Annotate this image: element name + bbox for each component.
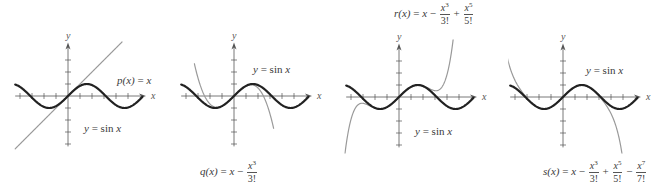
y-axis-label: y [396,31,402,42]
equals: = [423,125,429,137]
equals: = [594,64,600,76]
exponent: 3 [253,159,257,167]
x-var: x [116,122,121,134]
equals: = [137,74,143,86]
exponent: 7 [642,159,646,167]
p-rhs: x [146,74,151,86]
minus: − [626,165,632,177]
x-axis-label: x [645,91,651,102]
sin-fn: sin [603,64,616,76]
numerator: x3 [247,160,257,173]
x-var: x [447,125,452,137]
p-lhs: p(x) [117,74,135,86]
plus: + [603,165,609,177]
numerator: x3 [440,2,450,15]
y-axis-label: y [231,30,237,41]
fraction-x3-over-3fact: x3 3! [247,160,257,184]
fraction-x5-over-5fact: x5 5! [613,160,623,184]
label-q: q(x) = x − x3 3! [200,160,258,184]
label-sin-3: y = sin x [415,126,452,137]
exponent: 5 [469,1,473,9]
label-r: r(x) = x − x3 3! + x5 5! [394,2,474,26]
x-axis-label: x [316,90,322,101]
x-var: x [229,165,234,177]
equals: = [261,63,267,75]
taylor-polynomial-figure: xyxyxyxy p(x) = x y = sin x y = sin x q(… [0,0,668,195]
x-var: x [618,64,623,76]
x-var: x [422,7,427,19]
y-var: y [84,122,89,134]
denominator: 5! [464,15,474,26]
denominator: 3! [247,173,257,184]
s-lhs: s(x) [543,165,560,177]
y-var: y [415,125,420,137]
plus: + [454,7,460,19]
panel-2: xy [181,30,322,146]
r-lhs: r(x) [394,7,411,19]
denominator: 5! [613,173,623,184]
y-axis-label: y [560,31,566,42]
y-axis-label: y [65,30,71,41]
x-var: x [571,165,576,177]
y-var: y [586,64,591,76]
equals: = [220,165,226,177]
sin-fn: sin [432,125,445,137]
sin-fn: sin [101,122,114,134]
fraction-x3-over-3fact: x3 3! [589,160,599,184]
equals: = [413,7,419,19]
minus: − [579,165,585,177]
fraction-x7-over-7fact: x7 7! [636,160,646,184]
fraction-x3-over-3fact: x3 3! [440,2,450,26]
panel-3: xy [344,31,487,164]
label-s: s(x) = x − x3 3! + x5 5! − x7 7! [543,160,647,184]
panel-4: xy [507,31,651,160]
numerator: x3 [589,160,599,173]
label-sin-4: y = sin x [586,65,623,76]
minus: − [237,165,243,177]
x-axis-label: x [481,91,487,102]
x-axis-label: x [150,90,156,101]
denominator: 3! [589,173,599,184]
exponent: 5 [618,159,622,167]
label-sin-1: y = sin x [84,123,121,134]
label-sin-2: y = sin x [253,64,290,75]
minus: − [430,7,436,19]
exponent: 3 [445,1,449,9]
equals: = [562,165,568,177]
exponent: 3 [594,159,598,167]
sin-fn: sin [270,63,283,75]
numerator: x5 [464,2,474,15]
y-var: y [253,63,258,75]
denominator: 7! [636,173,646,184]
equals: = [92,122,98,134]
label-p: p(x) = x [117,75,151,86]
q-lhs: q(x) [200,165,218,177]
x-var: x [285,63,290,75]
denominator: 3! [440,15,450,26]
numerator: x7 [636,160,646,173]
fraction-x5-over-5fact: x5 5! [464,2,474,26]
numerator: x5 [613,160,623,173]
